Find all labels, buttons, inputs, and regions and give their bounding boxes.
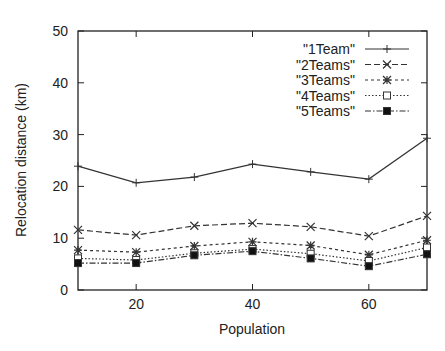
star-marker-icon xyxy=(423,236,431,244)
x-tick-label: 40 xyxy=(245,296,261,312)
series-1 xyxy=(74,134,431,187)
x-axis-label: Population xyxy=(219,321,285,337)
filled-square-marker-icon xyxy=(365,263,372,270)
filled-square-marker-icon xyxy=(75,260,82,267)
filled-square-marker-icon xyxy=(424,251,431,258)
legend-item: "4Teams" xyxy=(296,88,409,104)
plus-marker-icon xyxy=(132,179,140,187)
filled-square-marker-icon xyxy=(384,108,391,115)
plus-marker-icon xyxy=(74,162,82,170)
star-marker-icon xyxy=(383,76,391,84)
plus-marker-icon xyxy=(190,173,198,181)
plus-marker-icon xyxy=(307,168,315,176)
legend-label: "4Teams" xyxy=(296,88,355,104)
series-layer xyxy=(74,134,431,269)
legend-item: "1Team" xyxy=(303,41,409,57)
x-tick-label: 60 xyxy=(361,296,377,312)
legend-item: "3Teams" xyxy=(296,72,409,88)
legend-label: "2Teams" xyxy=(296,57,355,73)
y-tick-label: 30 xyxy=(52,127,68,143)
legend: "1Team""2Teams""3Teams""4Teams""5Teams" xyxy=(296,41,409,119)
series-2 xyxy=(74,212,431,240)
plus-marker-icon xyxy=(249,160,257,168)
y-tick-label: 0 xyxy=(60,282,68,298)
legend-label: "3Teams" xyxy=(296,72,355,88)
open-square-marker-icon xyxy=(384,92,391,99)
filled-square-marker-icon xyxy=(133,260,140,267)
star-marker-icon xyxy=(190,242,198,250)
legend-label: "1Team" xyxy=(303,41,355,57)
series-5 xyxy=(75,248,431,270)
line-chart: 01020304050 204060 "1Team""2Teams""3Team… xyxy=(0,0,445,351)
y-axis-label: Relocation distance (km) xyxy=(13,83,29,237)
series-line xyxy=(78,216,427,236)
star-marker-icon xyxy=(307,241,315,249)
plus-marker-icon xyxy=(423,134,431,142)
legend-item: "5Teams" xyxy=(296,103,409,119)
legend-item: "2Teams" xyxy=(296,57,409,73)
y-tick-label: 50 xyxy=(52,23,68,39)
y-tick-label: 20 xyxy=(52,178,68,194)
star-marker-icon xyxy=(74,246,82,254)
plus-marker-icon xyxy=(365,175,373,183)
open-square-marker-icon xyxy=(424,244,431,251)
x-tick-label: 20 xyxy=(128,296,144,312)
star-marker-icon xyxy=(249,238,257,246)
y-tick-label: 10 xyxy=(52,230,68,246)
legend-label: "5Teams" xyxy=(296,103,355,119)
star-marker-icon xyxy=(132,248,140,256)
filled-square-marker-icon xyxy=(307,255,314,262)
y-tick-label: 40 xyxy=(52,75,68,91)
plus-marker-icon xyxy=(383,45,391,53)
filled-square-marker-icon xyxy=(191,252,198,259)
filled-square-marker-icon xyxy=(249,248,256,255)
